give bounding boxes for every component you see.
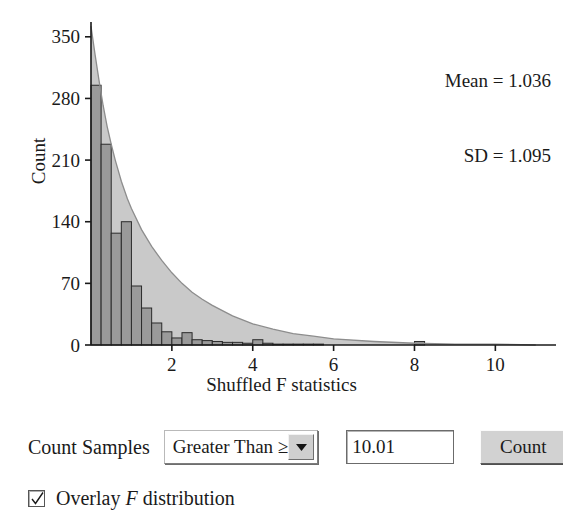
- svg-text:2: 2: [167, 354, 177, 375]
- threshold-input[interactable]: [346, 430, 454, 464]
- comparison-dropdown[interactable]: Greater Than ≥: [164, 430, 319, 464]
- overlay-distribution-row: Overlay F distribution: [28, 487, 235, 510]
- count-samples-label: Count Samples: [28, 436, 150, 459]
- check-icon: [30, 491, 45, 507]
- histogram-chart: 070140210280350 246810 Mean = 1.036 SD =…: [0, 0, 563, 410]
- svg-text:210: 210: [52, 150, 81, 171]
- svg-text:4: 4: [248, 354, 258, 375]
- svg-text:140: 140: [52, 211, 81, 232]
- sd-value: SD = 1.095: [445, 143, 551, 168]
- histogram-bars: [91, 85, 425, 345]
- x-axis-ticks: 246810: [167, 345, 505, 375]
- svg-text:280: 280: [52, 88, 81, 109]
- y-axis-ticks: 070140210280350: [52, 26, 92, 355]
- overlay-label-suffix: distribution: [138, 487, 235, 509]
- x-axis-label: Shuffled F statistics: [0, 374, 563, 396]
- svg-text:8: 8: [410, 354, 420, 375]
- count-button[interactable]: Count: [480, 430, 563, 464]
- count-samples-controls: Count Samples Greater Than ≥ Count: [0, 418, 563, 476]
- overlay-label-prefix: Overlay: [56, 487, 125, 509]
- mean-value: Mean = 1.036: [445, 68, 551, 93]
- chevron-down-icon[interactable]: [288, 434, 314, 460]
- svg-text:70: 70: [61, 273, 80, 294]
- svg-text:350: 350: [52, 26, 81, 47]
- overlay-checkbox[interactable]: [28, 490, 45, 507]
- overlay-label-italic: F: [125, 487, 137, 509]
- f-distribution-applet: 070140210280350 246810 Mean = 1.036 SD =…: [0, 0, 563, 519]
- y-axis-label: Count: [28, 116, 50, 206]
- overlay-checkbox-label: Overlay F distribution: [56, 487, 235, 510]
- summary-statistics: Mean = 1.036 SD = 1.095: [445, 18, 551, 219]
- comparison-dropdown-value: Greater Than ≥: [173, 436, 289, 458]
- svg-text:6: 6: [329, 354, 339, 375]
- svg-text:0: 0: [71, 335, 81, 356]
- svg-text:10: 10: [486, 354, 505, 375]
